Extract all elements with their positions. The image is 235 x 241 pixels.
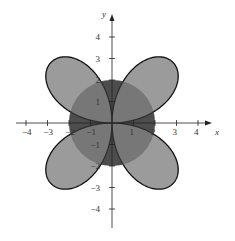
y-tick-label: −3 (90, 183, 100, 193)
x-tick-label: −2 (65, 127, 75, 137)
polar-graph: x y −4−3−2−11234 4321−1−2−3−4 (0, 0, 235, 241)
y-tick-label: −2 (90, 161, 100, 171)
x-arrow-icon (205, 121, 212, 126)
x-tick-label: 4 (194, 127, 199, 137)
x-tick-label: 2 (151, 127, 156, 137)
y-tick-label: 4 (96, 32, 101, 42)
x-tick-label: −4 (22, 127, 32, 137)
y-tick-label: 1 (96, 97, 101, 107)
y-label: y (101, 9, 106, 19)
x-tick-label: 3 (173, 127, 178, 137)
y-tick-label: −4 (90, 204, 100, 214)
x-tick-label: −1 (87, 127, 97, 137)
x-tick-label: 1 (130, 127, 135, 137)
x-label: x (214, 127, 219, 137)
y-arrow-icon (110, 14, 115, 21)
y-tick-label: 2 (96, 75, 101, 85)
y-tick-label: −1 (90, 140, 100, 150)
y-tick-label: 3 (96, 54, 101, 64)
x-tick-label: −3 (44, 127, 54, 137)
